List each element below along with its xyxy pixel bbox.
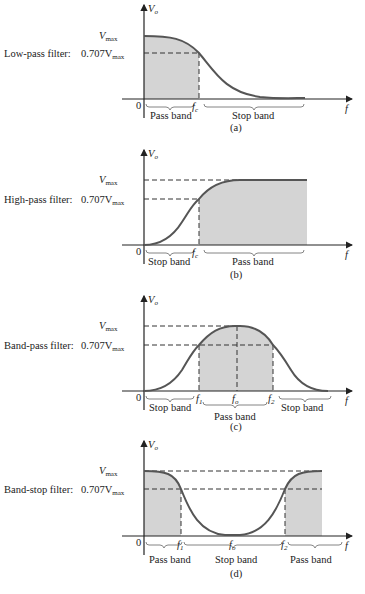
origin-label: 0 bbox=[136, 246, 141, 257]
panel-caption: (d) bbox=[230, 568, 243, 580]
freq-label-fo: fo bbox=[229, 539, 236, 552]
v707-label: 0.707Vmax bbox=[81, 340, 125, 353]
vmax-label: Vmax bbox=[99, 320, 118, 333]
freq-label-fc: fc bbox=[192, 101, 199, 114]
freq-label-f2: f2 bbox=[281, 539, 288, 552]
panel-low-pass: Low-pass filter: Vo Vmax 0.707Vmax 0 fc … bbox=[4, 3, 352, 134]
band-label: Stop band bbox=[215, 554, 258, 565]
panel-band-pass: Band-pass filter: Vo Vmax 0.707Vmax 0 f1… bbox=[4, 294, 352, 433]
x-axis-label: f bbox=[345, 395, 350, 406]
panel-title: Band-pass filter: bbox=[4, 340, 74, 351]
vmax-label: Vmax bbox=[99, 30, 118, 43]
origin-label: 0 bbox=[136, 392, 141, 403]
x-axis-label: f bbox=[345, 103, 350, 114]
vmax-label: Vmax bbox=[99, 174, 118, 187]
band-label: Pass band bbox=[149, 554, 191, 565]
v707-label: 0.707Vmax bbox=[81, 194, 125, 207]
x-axis-label: f bbox=[345, 249, 350, 260]
panel-title: High-pass filter: bbox=[4, 194, 73, 205]
band-label: Pass band bbox=[290, 554, 332, 565]
freq-label-f1: f1 bbox=[177, 539, 183, 552]
freq-label-f1: f1 bbox=[196, 393, 202, 406]
panel-title: Low-pass filter: bbox=[4, 48, 71, 59]
y-axis-label: Vo bbox=[148, 148, 158, 161]
band-label: Pass band bbox=[150, 110, 192, 121]
vmax-label: Vmax bbox=[99, 465, 118, 478]
panel-caption: (c) bbox=[230, 421, 242, 433]
panel-title: Band-stop filter: bbox=[4, 484, 73, 495]
y-axis-label: Vo bbox=[148, 294, 158, 307]
panel-caption: (b) bbox=[230, 269, 243, 281]
band-label: Stop band bbox=[281, 402, 324, 413]
panel-high-pass: High-pass filter: Vo Vmax 0.707Vmax 0 fc… bbox=[4, 148, 352, 281]
band-label: Stop band bbox=[148, 256, 191, 267]
freq-label-fo: fo bbox=[232, 393, 239, 406]
panel-band-stop: Band-stop filter: Vo Vmax 0.707Vmax 0 f1… bbox=[4, 439, 352, 580]
y-axis-label: Vo bbox=[148, 3, 158, 16]
v707-label: 0.707Vmax bbox=[81, 48, 125, 61]
origin-label: 0 bbox=[136, 537, 141, 548]
pass-band-fill bbox=[199, 326, 273, 391]
panel-caption: (a) bbox=[230, 122, 242, 134]
x-axis-label: f bbox=[345, 540, 350, 551]
band-label: Stop band bbox=[149, 402, 192, 413]
band-label: Stop band bbox=[232, 110, 275, 121]
band-label: Pass band bbox=[232, 256, 274, 267]
brace-pass bbox=[288, 542, 342, 548]
v707-label: 0.707Vmax bbox=[81, 484, 125, 497]
freq-label-f2: f2 bbox=[268, 393, 275, 406]
pass-band-fill bbox=[199, 180, 307, 245]
freq-label-fc: fc bbox=[192, 247, 199, 260]
origin-label: 0 bbox=[136, 100, 141, 111]
filter-response-figure: Low-pass filter: Vo Vmax 0.707Vmax 0 fc … bbox=[0, 0, 365, 594]
y-axis-label: Vo bbox=[148, 439, 158, 452]
